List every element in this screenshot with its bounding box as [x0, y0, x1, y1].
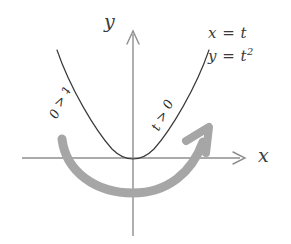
equation-y-exponent: 2: [247, 46, 254, 57]
y-axis-label: y: [104, 12, 115, 31]
equation-block: x = t y = t2: [208, 23, 254, 68]
equation-y-base: y = t: [208, 47, 247, 65]
equation-y: y = t2: [208, 45, 254, 68]
x-axis-label: x: [258, 146, 269, 165]
equation-x: x = t: [208, 23, 254, 45]
orientation-arrow: [62, 127, 209, 193]
parametric-curve-figure: y x x = t y = t2 t < 0 t > 0: [0, 0, 291, 244]
